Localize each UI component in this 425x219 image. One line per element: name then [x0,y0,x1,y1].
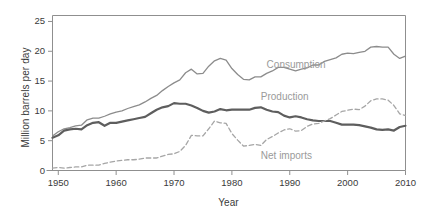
y-axis-title: Million barrels per day [20,18,31,178]
y-tick-label-5: 5 [23,135,45,146]
x-tick-label-2000: 2000 [328,177,368,188]
y-tick-label-20: 20 [23,45,45,56]
series-label-consumption: Consumption [267,59,326,70]
x-tick-label-1990: 1990 [270,177,310,188]
x-tick-label-1970: 1970 [154,177,194,188]
x-tick-label-1980: 1980 [212,177,252,188]
series-label-production: Production [261,91,309,102]
series-line-production [53,103,406,138]
x-tick-label-1960: 1960 [96,177,136,188]
x-tick-label-1950: 1950 [38,177,78,188]
plot-frame [47,16,406,171]
plot-box-spines [53,16,406,171]
x-axis-title: Year [52,197,405,208]
data-series-group [53,47,406,169]
y-tick-label-0: 0 [23,165,45,176]
chart-figure: Million barrels per day Year 0510152025 … [0,0,425,219]
y-tick-label-25: 25 [23,15,45,26]
series-label-net-imports: Net imports [261,150,312,161]
axis-ticks [48,21,406,175]
series-line-consumption [53,47,406,136]
y-tick-label-10: 10 [23,105,45,116]
y-tick-label-15: 15 [23,75,45,86]
x-tick-label-2010: 2010 [386,177,425,188]
